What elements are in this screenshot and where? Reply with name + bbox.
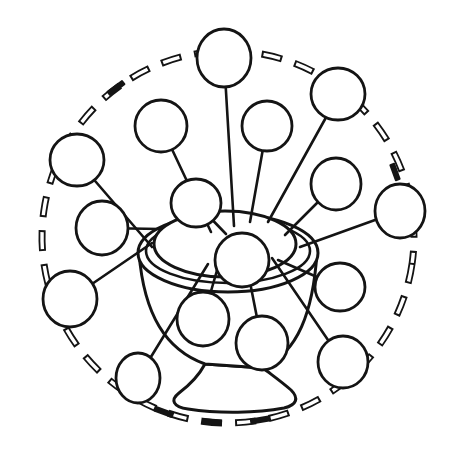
solid-dash: [106, 80, 126, 97]
bubble-circle: [197, 29, 251, 87]
bubble-circle: [116, 353, 160, 403]
bubble-circle: [215, 233, 269, 287]
bubble-circle: [311, 68, 365, 120]
bubble-circle: [236, 316, 288, 370]
bubble-circle: [76, 201, 128, 255]
bubble-circle: [242, 101, 292, 151]
bubble-circle: [375, 184, 425, 238]
bubble-circle: [43, 271, 97, 327]
bubble-circle: [315, 263, 365, 311]
bubble-circle: [135, 100, 187, 152]
bubble-circle: [318, 336, 368, 388]
bubble-circle: [177, 292, 229, 346]
solid-dash: [250, 415, 271, 424]
bubble-circle: [311, 158, 361, 210]
solid-dash: [154, 406, 175, 418]
line-drawing-figure: Hand-drawn black ink line illustration o…: [0, 0, 457, 449]
bubble-circle: [171, 179, 221, 227]
bubble-circle: [50, 134, 104, 186]
bowl-foot: [174, 364, 296, 412]
